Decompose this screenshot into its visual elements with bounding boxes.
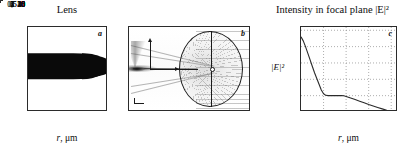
x-tick-label: 2 xyxy=(0,0,24,9)
focal-spot xyxy=(129,66,145,71)
lens-outline xyxy=(179,31,243,107)
panel-a-x-axis-unit: , μm xyxy=(60,133,77,143)
panel-a-letter: a xyxy=(98,29,102,38)
panel-b-letter: b xyxy=(241,29,245,38)
panel-c-title: Intensity in focal plane |E|² xyxy=(255,4,410,15)
scale-bar xyxy=(134,103,144,104)
z-axis-arrow xyxy=(150,41,151,69)
panel-c-letter: c xyxy=(388,29,392,38)
panel-c-plot-area: c xyxy=(300,26,397,111)
panel-a-x-axis-label: r, μm xyxy=(27,133,107,143)
lens-origin-marker xyxy=(210,67,215,72)
panel-c-x-axis-unit: , μm xyxy=(342,133,359,143)
panel-a-plot-area: a xyxy=(27,26,107,111)
panel-b-plot-area: b xyxy=(128,26,250,111)
panel-c-x-axis-label: r, μm xyxy=(300,133,397,143)
r-axis-arrow xyxy=(150,69,176,70)
panel-c-y-axis-label: |E|² xyxy=(271,62,284,72)
intensity-curve-svg xyxy=(301,27,397,111)
figure-root: Lens a 0510152025303540 1234567 r, μm xyxy=(0,0,410,157)
panel-a-title: Lens xyxy=(27,4,107,15)
